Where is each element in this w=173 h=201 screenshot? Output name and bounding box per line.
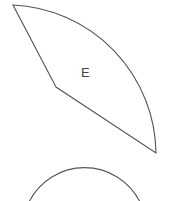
diagram-canvas: E bbox=[0, 0, 173, 201]
sector-e-label: E bbox=[81, 65, 90, 80]
partial-circle-arc bbox=[29, 168, 140, 201]
